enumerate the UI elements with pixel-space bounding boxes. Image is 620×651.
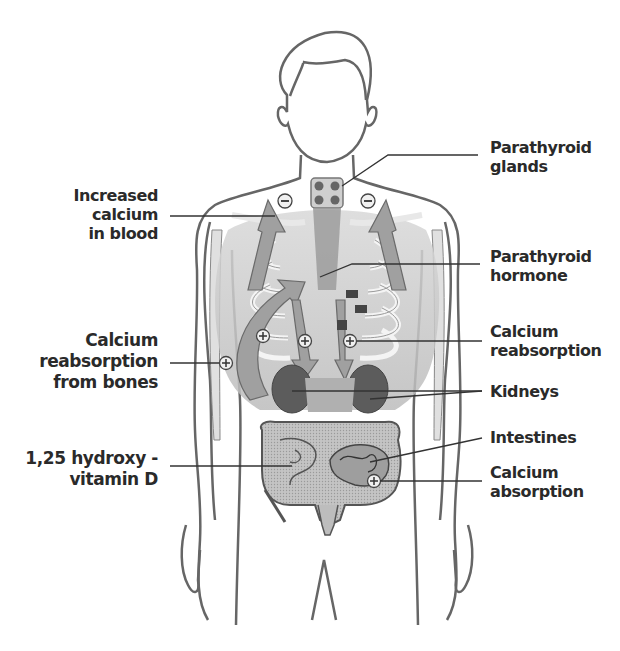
label-line: Increased <box>73 186 158 205</box>
label-line: Kidneys <box>490 382 559 401</box>
label-parathyroid-hormone: Parathyroid hormone <box>490 247 592 285</box>
label-line: glands <box>490 157 592 176</box>
label-vitamin-d: 1,25 hydroxy - vitamin D <box>25 448 158 490</box>
label-intestines: Intestines <box>490 428 576 447</box>
label-line: reabsorption <box>39 351 158 372</box>
label-line: Calcium <box>490 463 584 482</box>
label-calcium-absorption: Calcium absorption <box>490 463 584 501</box>
label-calcium-reabsorption-bones: Calcium reabsorption from bones <box>39 330 158 393</box>
label-kidneys: Kidneys <box>490 382 559 401</box>
label-line: calcium <box>73 205 158 224</box>
label-line: absorption <box>490 482 584 501</box>
label-increased-calcium: Increased calcium in blood <box>73 186 158 243</box>
label-line: 1,25 hydroxy - <box>25 448 158 469</box>
label-line: from bones <box>39 372 158 393</box>
label-line: Calcium <box>39 330 158 351</box>
label-line: vitamin D <box>25 469 158 490</box>
head <box>278 32 377 162</box>
label-parathyroid-glands: Parathyroid glands <box>490 138 592 176</box>
label-line: reabsorption <box>490 341 602 360</box>
label-calcium-reabsorption: Calcium reabsorption <box>490 322 602 360</box>
parathyroid-glands <box>311 178 343 208</box>
label-line: hormone <box>490 266 592 285</box>
label-line: Intestines <box>490 428 576 447</box>
label-line: in blood <box>73 224 158 243</box>
label-line: Parathyroid <box>490 247 592 266</box>
spine-area <box>305 378 355 412</box>
label-line: Parathyroid <box>490 138 592 157</box>
label-line: Calcium <box>490 322 602 341</box>
